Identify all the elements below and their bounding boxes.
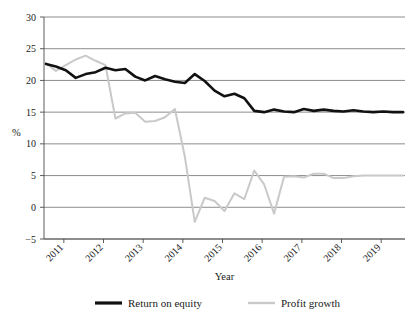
x-tick-label: 2019 [361, 242, 383, 264]
x-axis: 201120122013201420152016201720182019Year [44, 239, 405, 282]
y-tick-label: 20 [26, 75, 36, 86]
y-axis: −5051015202530% [12, 12, 44, 245]
y-tick-label: 10 [26, 138, 36, 149]
y-tick-label: 15 [26, 107, 36, 118]
legend-label: Return on equity [128, 297, 202, 309]
x-tick-label: 2015 [202, 242, 224, 264]
y-tick-label: 30 [26, 12, 36, 23]
legend: Return on equityProfit growth [95, 297, 340, 309]
x-tick-label: 2014 [162, 242, 184, 264]
y-tick-label: −5 [25, 234, 36, 245]
x-tick-label: 2013 [123, 242, 145, 264]
x-tick-label: 2016 [242, 242, 264, 264]
y-axis-title: % [12, 127, 21, 138]
x-tick-label: 2012 [83, 242, 105, 264]
x-tick-label: 2017 [281, 242, 303, 264]
gridlines [44, 17, 405, 239]
chart-container: −5051015202530%2011201220132014201520162… [0, 0, 415, 317]
series-line-return-on-equity [46, 64, 403, 112]
line-chart: −5051015202530%2011201220132014201520162… [0, 0, 415, 317]
legend-label: Profit growth [281, 297, 340, 309]
y-tick-label: 0 [31, 202, 36, 213]
y-tick-label: 25 [26, 43, 36, 54]
x-tick-label: 2011 [44, 242, 66, 264]
x-axis-title: Year [215, 271, 235, 282]
x-tick-label: 2018 [321, 242, 343, 264]
y-tick-label: 5 [31, 170, 36, 181]
